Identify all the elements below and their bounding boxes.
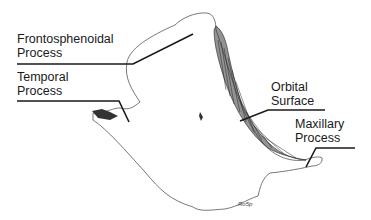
label-line1: Frontosphenoidal (17, 32, 114, 46)
bone-outline (93, 13, 322, 210)
label-line1: Temporal (17, 70, 68, 84)
label-line2: Process (17, 84, 68, 98)
temporal-process-tip (92, 109, 118, 120)
label-line1: Orbital (271, 80, 314, 94)
label-line2: Surface (271, 94, 314, 108)
label-line2: Process (295, 131, 344, 145)
label-maxillary-process: Maxillary Process (295, 117, 344, 145)
label-temporal-process: Temporal Process (17, 70, 68, 98)
label-orbital-surface: Orbital Surface (271, 80, 314, 108)
label-line2: Process (17, 46, 114, 60)
label-line1: Maxillary (295, 117, 344, 131)
artist-signature: Ro5p (238, 201, 253, 207)
label-frontosphenoidal-process: Frontosphenoidal Process (17, 32, 114, 60)
foramen (199, 112, 203, 121)
